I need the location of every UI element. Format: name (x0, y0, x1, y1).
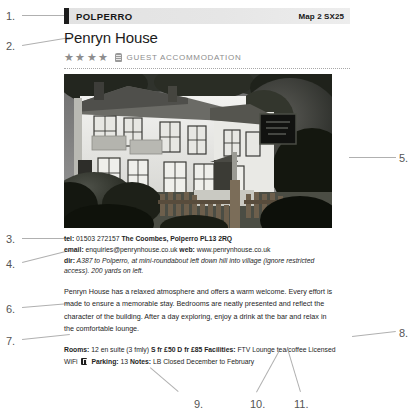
callout-number-7: 7. (6, 335, 15, 347)
parking-value: 13 (120, 358, 128, 365)
directions-label: dir: (64, 257, 75, 264)
leader-1 (22, 15, 68, 16)
leader-7 (22, 334, 70, 340)
notes-label: Notes: (130, 358, 151, 365)
leader-5 (349, 157, 396, 158)
postal-address: The Coombes, Polperro PL13 2RQ (121, 235, 232, 242)
callout-number-10: 10. (250, 398, 265, 410)
directions-line: dir: A387 to Polperro, at mini-roundabou… (64, 256, 336, 277)
leader-6 (22, 303, 70, 308)
guide-entry-card: POLPERRO Map 2 SX25 Penryn House ★★★★ GU… (64, 8, 350, 367)
town-banner: POLPERRO Map 2 SX25 (64, 8, 350, 24)
tel-label: tel: (64, 235, 74, 242)
rosette-emblem-icon (115, 53, 122, 62)
tel-number: 01503 272157 (76, 235, 119, 242)
callout-number-3: 3. (6, 233, 15, 245)
rooms-label: Rooms: (64, 346, 89, 353)
leader-2 (22, 37, 70, 46)
double-rate: D fr £85 (177, 346, 202, 353)
telephone-line: tel: 01503 272157 The Coombes, Polperro … (64, 234, 350, 244)
rating-row: ★★★★ GUEST ACCOMMODATION (64, 52, 350, 64)
leader-8 (352, 331, 396, 337)
parking-label: Parking: (91, 358, 118, 365)
email-web-line: email: enquiries@penrynhouse.co.uk web: … (64, 245, 350, 255)
parking-icon (81, 358, 87, 365)
entry-details: tel: 01503 272157 The Coombes, Polperro … (64, 234, 350, 367)
notes-value: LB Closed December to February (153, 358, 254, 365)
establishment-name: Penryn House (64, 30, 350, 46)
email-address[interactable]: enquiries@penrynhouse.co.uk (86, 246, 178, 253)
callout-number-11: 11. (294, 398, 308, 410)
callout-number-9: 9. (194, 398, 203, 410)
callout-number-2: 2. (6, 40, 15, 52)
leader-3 (22, 238, 70, 239)
callout-number-6: 6. (6, 303, 15, 315)
facilities-label: Facilities: (204, 346, 235, 353)
leader-4 (22, 250, 70, 263)
description-paragraph: Penryn House has a relaxed atmosphere an… (64, 286, 336, 336)
town-name: POLPERRO (76, 11, 133, 22)
directions-text: A387 to Polperro, at mini-roundabout lef… (64, 257, 314, 275)
single-rate: S fr £50 (151, 346, 176, 353)
map-reference: Map 2 SX25 (299, 12, 344, 21)
facilities-block: Rooms: 12 en suite (3 fmly) S fr £50 D f… (64, 344, 342, 366)
callout-number-4: 4. (6, 258, 15, 270)
divider-dotted (64, 68, 350, 69)
callout-number-8: 8. (399, 327, 408, 339)
photo-graphic (64, 74, 332, 228)
leader-9 (150, 367, 179, 392)
establishment-photo (64, 74, 332, 228)
web-label: web: (179, 246, 194, 253)
rooms-value: 12 en suite (3 fmly) (91, 346, 149, 353)
star-rating-icon: ★★★★ (64, 52, 110, 63)
classification-label: GUEST ACCOMMODATION (127, 53, 242, 62)
callout-number-1: 1. (6, 10, 15, 22)
website-url[interactable]: www.penrynhouse.co.uk (197, 246, 271, 253)
town-marker-icon (64, 8, 69, 24)
email-label: email: (64, 246, 84, 253)
callout-number-5: 5. (399, 152, 408, 164)
